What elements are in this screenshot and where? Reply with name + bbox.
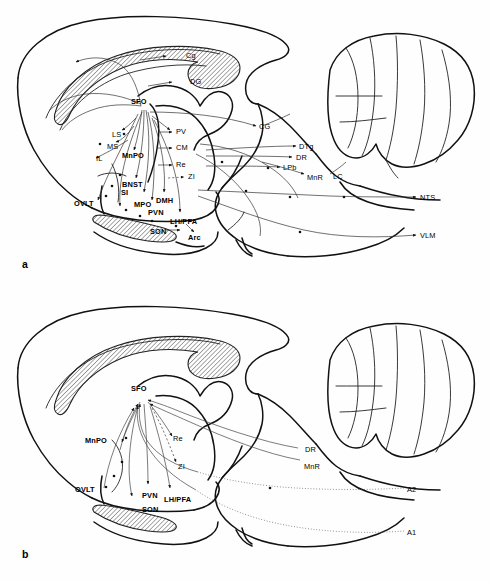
cerebellum-outline	[328, 324, 474, 457]
label-lh-pfa: LH/PFA	[164, 496, 191, 503]
aqueduct-contour	[222, 156, 242, 188]
label-son: SON	[150, 228, 166, 235]
terminal-dot	[105, 195, 108, 198]
interpeduncular-contour	[228, 212, 244, 230]
label-sfo: SFO	[131, 385, 147, 392]
label-son: SON	[142, 506, 158, 513]
pathway-sfo-pvn	[148, 112, 154, 200]
panel-a: Cg DG SFO LS MS IL MnPO PV CM Re ZI BNST…	[0, 0, 491, 290]
cerebellar-folium-7	[340, 118, 386, 122]
fourth-ventricle-outline	[340, 182, 414, 210]
preoptic-contour	[112, 440, 123, 492]
label-ovlt: OVLT	[74, 200, 94, 207]
terminal-dot	[221, 161, 224, 164]
label-arc: Arc	[188, 234, 201, 241]
terminal-dot	[139, 215, 142, 218]
panel-b-drawing	[0, 290, 491, 581]
pituitary-stalk	[176, 242, 204, 247]
septum-thalamus-outline	[138, 375, 233, 440]
third-ventricle-outline	[156, 396, 215, 481]
label-re: Re	[176, 161, 186, 168]
terminal-dot	[121, 461, 124, 464]
label-si: SI	[121, 189, 128, 196]
terminal-dot	[299, 231, 302, 234]
pathway-mnr-to-sfo	[150, 404, 300, 460]
label-nts: NTS	[420, 194, 435, 201]
label-mnr: MnR	[307, 174, 323, 181]
terminal-dot	[125, 209, 128, 212]
pathway-sfo-ls	[122, 118, 136, 130]
pathway-sfo-pv	[152, 116, 170, 130]
label-dr: DR	[305, 446, 316, 453]
label-mnpo: MnPO	[122, 152, 144, 159]
septum-thalamus-outline	[138, 85, 233, 150]
label-re: Re	[173, 435, 183, 442]
label-a1: A1	[407, 529, 416, 536]
label-lc: LC	[333, 173, 343, 180]
lamina-terminalis	[101, 186, 104, 214]
terminal-dot	[111, 185, 114, 188]
label-sfo: SFO	[131, 98, 147, 105]
cerebellar-folium-2	[362, 38, 375, 156]
label-zi: ZI	[178, 463, 185, 470]
medulla-dorsal-outline	[360, 476, 440, 490]
label-pvn: PVN	[142, 492, 158, 499]
pathway-sfo-mnpo	[134, 110, 142, 150]
label-dg: DG	[190, 78, 201, 85]
cerebellar-fissure	[386, 160, 398, 178]
cerebellar-folium-5	[436, 340, 451, 452]
label-pv: PV	[176, 128, 186, 135]
label-il: IL	[96, 155, 102, 162]
pathway-to-vlm	[198, 196, 416, 237]
label-cg-brainstem: CG	[259, 123, 270, 130]
cerebellar-folium-1	[346, 338, 358, 438]
terminal-dot	[119, 174, 122, 177]
label-cg-cortical: Cg	[186, 52, 196, 59]
label-dtg: DTg	[299, 143, 313, 150]
label-lh-pfa: LH/PFA	[170, 218, 197, 225]
cerebellum-outline	[328, 34, 474, 167]
label-pvn: PVN	[148, 209, 164, 216]
label-dr: DR	[296, 154, 307, 161]
pathway-dr-to-sfo	[148, 400, 298, 448]
cerebellar-folium-3	[386, 326, 398, 450]
terminal-dot	[269, 487, 272, 490]
pons-outline	[316, 444, 360, 476]
label-lpb: LPb	[283, 164, 297, 171]
terminal-dot	[99, 143, 102, 146]
cerebellar-folium-5	[436, 50, 451, 162]
label-dmh: DMH	[156, 197, 173, 204]
label-cm: CM	[176, 144, 188, 151]
terminal-dot	[289, 196, 292, 199]
terminal-dot	[267, 167, 270, 170]
pathway-to-cg-brainstem	[150, 112, 256, 126]
brainstem-outline	[215, 104, 288, 256]
terminal-dot	[245, 190, 248, 193]
terminal-dot	[151, 220, 154, 223]
panel-letter-a: a	[22, 258, 28, 270]
lamina-terminalis	[101, 476, 104, 504]
label-ms: MS	[107, 143, 118, 150]
corpus-callosum-hatched	[54, 46, 240, 124]
label-ovlt: OVLT	[75, 486, 95, 493]
terminal-dot	[105, 486, 108, 489]
pathway-to-dr	[206, 156, 292, 157]
label-zi: ZI	[188, 173, 195, 180]
cerebellar-folium-2	[362, 328, 375, 446]
pathway-sfo-to-lhpfa	[150, 406, 170, 488]
pathway-sfo-mpo	[144, 110, 149, 192]
terminal-dot	[123, 133, 126, 136]
terminal-dot	[125, 437, 128, 440]
cerebellar-folium-1	[346, 48, 358, 148]
cerebellar-folium-4	[414, 40, 425, 164]
aqueduct-contour	[222, 446, 242, 478]
pathway-a2-rostral	[139, 404, 198, 472]
brainstem-outline	[215, 394, 288, 546]
label-a2: A2	[407, 486, 416, 493]
label-mnpo: MnPO	[85, 437, 107, 444]
midbrain-dorsal-outline	[258, 394, 316, 444]
fourth-ventricle-outline	[340, 472, 414, 500]
cerebellar-folium-4	[414, 330, 425, 454]
corpus-callosum-hatched	[54, 336, 240, 414]
terminal-dot	[113, 475, 116, 478]
